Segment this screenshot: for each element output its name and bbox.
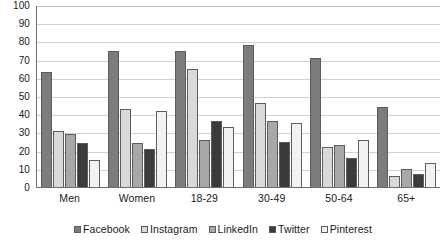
legend-swatch-facebook <box>74 226 81 233</box>
x-axis-label: 65+ <box>373 192 440 204</box>
bar-group <box>37 6 104 187</box>
legend-label: Facebook <box>83 224 130 235</box>
bar-twitter-30-49[interactable] <box>279 142 290 188</box>
bar-group <box>373 6 440 187</box>
legend-label: LinkedIn <box>218 224 259 235</box>
bar-twitter-women[interactable] <box>144 149 155 187</box>
bar-linkedin-30-49[interactable] <box>267 121 278 187</box>
y-axis-tick-label: 50 <box>19 92 30 102</box>
bar-pinterest-men[interactable] <box>89 160 100 187</box>
legend-label: Pinterest <box>330 224 372 235</box>
bar-groups <box>37 6 440 187</box>
bar-group <box>171 6 238 187</box>
bar-facebook-65plus[interactable] <box>377 107 388 187</box>
y-axis-tick-label: 0 <box>24 183 30 193</box>
bar-facebook-women[interactable] <box>108 51 119 188</box>
bar-twitter-18-29[interactable] <box>211 121 222 187</box>
bar-pinterest-30-49[interactable] <box>291 123 302 187</box>
x-axis-label: 18-29 <box>171 192 238 204</box>
bar-instagram-50-64[interactable] <box>322 147 333 187</box>
legend-label: Instagram <box>150 224 198 235</box>
y-axis-tick-label: 20 <box>19 147 30 157</box>
bar-pinterest-65plus[interactable] <box>425 163 436 187</box>
legend-item-pinterest[interactable]: Pinterest <box>321 224 372 235</box>
bar-facebook-18-29[interactable] <box>175 51 186 188</box>
bar-instagram-women[interactable] <box>120 109 131 187</box>
bar-chart: 1009080706050403020100 MenWomen18-2930-4… <box>0 0 446 245</box>
legend-swatch-pinterest <box>321 226 328 233</box>
y-axis-tick-label: 30 <box>19 128 30 138</box>
bar-linkedin-65plus[interactable] <box>401 169 412 187</box>
bar-instagram-18-29[interactable] <box>187 69 198 187</box>
y-axis-tick-label: 10 <box>19 165 30 175</box>
legend-label: Twitter <box>278 224 310 235</box>
plot-wrapper: 1009080706050403020100 MenWomen18-2930-4… <box>0 6 446 202</box>
bar-instagram-men[interactable] <box>53 131 64 187</box>
legend-item-facebook[interactable]: Facebook <box>74 224 130 235</box>
bar-group <box>306 6 373 187</box>
plot-area <box>36 6 440 188</box>
bar-pinterest-18-29[interactable] <box>223 127 234 187</box>
bar-instagram-65plus[interactable] <box>389 176 400 187</box>
bar-linkedin-18-29[interactable] <box>199 140 210 187</box>
x-axis-label: Men <box>36 192 103 204</box>
y-axis: 1009080706050403020100 <box>0 6 34 188</box>
legend-item-instagram[interactable]: Instagram <box>141 224 198 235</box>
y-axis-tick-label: 40 <box>19 110 30 120</box>
x-axis-label: 30-49 <box>238 192 305 204</box>
y-axis-tick-label: 80 <box>19 37 30 47</box>
legend-swatch-twitter <box>269 226 276 233</box>
legend-item-twitter[interactable]: Twitter <box>269 224 310 235</box>
y-axis-tick-label: 90 <box>19 19 30 29</box>
y-axis-tick-label: 100 <box>13 1 30 11</box>
x-axis-labels: MenWomen18-2930-4950-6465+ <box>36 192 440 204</box>
bar-pinterest-women[interactable] <box>156 111 167 187</box>
bar-facebook-men[interactable] <box>41 72 52 187</box>
y-axis-tick-label: 60 <box>19 74 30 84</box>
bar-twitter-50-64[interactable] <box>346 158 357 187</box>
bar-linkedin-women[interactable] <box>132 143 143 187</box>
bar-instagram-30-49[interactable] <box>255 103 266 187</box>
bar-twitter-65plus[interactable] <box>413 174 424 187</box>
bar-pinterest-50-64[interactable] <box>358 140 369 187</box>
x-axis-label: Women <box>103 192 170 204</box>
bar-facebook-30-49[interactable] <box>243 45 254 187</box>
legend-swatch-instagram <box>141 226 148 233</box>
bar-twitter-men[interactable] <box>77 143 88 187</box>
bar-group <box>239 6 306 187</box>
chart-legend: FacebookInstagramLinkedInTwitterPinteres… <box>0 224 446 235</box>
bar-group <box>104 6 171 187</box>
bar-linkedin-men[interactable] <box>65 134 76 187</box>
x-axis-label: 50-64 <box>305 192 372 204</box>
bar-linkedin-50-64[interactable] <box>334 145 345 187</box>
bar-facebook-50-64[interactable] <box>310 58 321 187</box>
legend-swatch-linkedin <box>209 226 216 233</box>
y-axis-tick-label: 70 <box>19 56 30 66</box>
legend-item-linkedin[interactable]: LinkedIn <box>209 224 259 235</box>
